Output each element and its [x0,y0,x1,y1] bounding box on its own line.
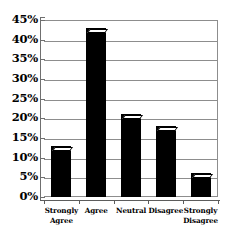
y-tick-label: 10% [0,152,38,164]
bar-chart: 45% 40% 35% 30% 25% 20% 15% 10% 5% 0% St… [0,0,235,243]
gridline [44,80,217,81]
y-tick-mark [40,79,45,80]
bar-top-face [122,115,143,119]
y-tick-label: 35% [0,54,38,66]
x-category-label: Neutral [114,206,149,216]
x-category-label-line: Strongly [183,206,218,216]
x-tick-mark [114,200,115,204]
y-tick-label: 25% [0,93,38,105]
y-tick-mark [40,158,45,159]
y-tick-mark [40,118,45,119]
gridline [44,60,217,61]
bar-top-face [192,174,213,178]
y-axis: 45% 40% 35% 30% 25% 20% 15% 10% 5% 0% [0,0,38,243]
y-tick-mark [40,40,45,41]
x-tick-mark [183,200,184,204]
x-category-label-line: Strongly [44,206,79,216]
x-category-label: StronglyAgree [44,206,79,225]
gridline [44,100,217,101]
y-tick-mark [40,138,45,139]
y-tick-mark [40,99,45,100]
y-axis-outer-line [40,17,41,200]
x-category-label-line: Neutral [114,206,149,216]
y-tick-label: 40% [0,34,38,46]
x-tick-mark [148,200,149,204]
y-tick-label: 30% [0,73,38,85]
x-category-label: Agree [79,206,114,216]
y-tick-mark [40,59,45,60]
y-tick-label: 20% [0,113,38,125]
bar [191,173,211,197]
bar [86,28,106,197]
gridline [44,41,217,42]
bar-top-face [52,147,73,151]
x-axis-line [40,200,220,201]
x-category-label-line: Agree [44,216,79,226]
bar-top-face [87,29,108,33]
bar-top-face [157,127,178,131]
y-tick-mark [40,20,45,21]
bar [51,146,71,197]
y-tick-mark [40,197,45,198]
x-category-label-line: Agree [79,206,114,216]
y-tick-label: 45% [0,14,38,26]
x-tick-mark [218,200,219,204]
y-tick-label: 0% [0,191,38,203]
y-tick-mark [40,177,45,178]
x-category-label: StronglyDisagree [183,206,218,225]
bar [156,126,176,197]
x-tick-mark [79,200,80,204]
y-tick-label: 15% [0,132,38,144]
bar [121,114,141,197]
x-category-label: Disagree [148,206,183,216]
x-category-label-line: Disagree [148,206,183,216]
x-tick-mark [44,200,45,204]
x-category-label-line: Disagree [183,216,218,226]
y-tick-label: 5% [0,172,38,184]
